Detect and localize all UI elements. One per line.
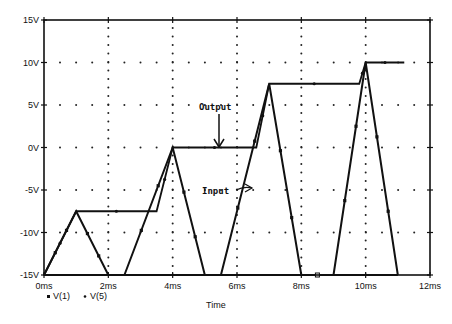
x-tick-label: 8ms xyxy=(293,281,311,291)
marker-square-icon xyxy=(194,235,197,238)
grid-dot xyxy=(300,129,302,131)
y-tick-label: 10V xyxy=(23,58,39,68)
grid-dot xyxy=(59,147,61,149)
grid-dot xyxy=(236,138,238,140)
grid-dot xyxy=(300,78,302,80)
grid-dot xyxy=(123,62,125,64)
grid-dot xyxy=(172,265,174,267)
grid-dot xyxy=(236,36,238,38)
grid-dot xyxy=(365,121,367,123)
grid-dot xyxy=(107,232,109,234)
grid-dot xyxy=(317,62,319,64)
marker-dot-icon xyxy=(58,242,61,245)
marker-square-icon xyxy=(290,216,293,219)
grid-dot xyxy=(172,163,174,165)
grid-dot xyxy=(140,104,142,106)
grid-dot xyxy=(172,44,174,46)
grid-dot xyxy=(333,232,335,234)
grid-dot xyxy=(300,121,302,123)
grid-dot xyxy=(107,112,109,114)
grid-dot xyxy=(349,232,351,234)
grid-dot xyxy=(220,232,222,234)
y-tick-label: -15V xyxy=(20,270,39,280)
grid-dot xyxy=(107,78,109,80)
grid-dot xyxy=(365,95,367,97)
grid-dot xyxy=(140,189,142,191)
grid-dot xyxy=(236,78,238,80)
grid-dot xyxy=(284,104,286,106)
marker-square-icon xyxy=(343,199,346,202)
grid-dot xyxy=(107,129,109,131)
grid-dot xyxy=(236,248,238,250)
grid-dot xyxy=(107,189,109,191)
marker-square-icon xyxy=(236,206,239,209)
marker-square-icon xyxy=(354,125,357,128)
grid-dot xyxy=(172,189,174,191)
grid-dot xyxy=(413,189,415,191)
annotation-input: Input xyxy=(202,184,252,196)
grid-dot xyxy=(188,62,190,64)
grid-dot xyxy=(59,189,61,191)
grid-dot xyxy=(268,147,270,149)
legend-label-v1: V(1) xyxy=(53,291,70,301)
grid-dot xyxy=(172,27,174,29)
grid-dot xyxy=(236,129,238,131)
grid-dot xyxy=(236,155,238,157)
grid-dot xyxy=(236,163,238,165)
grid-dot xyxy=(156,62,158,64)
grid-dot xyxy=(365,87,367,89)
chart: 15V10V5V0V-5V-10V-15V 0ms2ms4ms6ms8ms10m… xyxy=(0,0,452,324)
grid-dot xyxy=(107,172,109,174)
grid-dot xyxy=(156,232,158,234)
grid-dot xyxy=(172,138,174,140)
marker-dot-icon xyxy=(313,82,316,85)
grid-dot xyxy=(172,240,174,242)
grid-dot xyxy=(301,62,303,64)
grid-dot xyxy=(236,121,238,123)
grid-dot xyxy=(188,104,190,106)
grid-dot xyxy=(236,180,238,182)
grid-dot xyxy=(236,70,238,72)
grid-dot xyxy=(107,163,109,165)
grid-dot xyxy=(333,189,335,191)
grid-dot xyxy=(284,62,286,64)
grid-dot xyxy=(365,104,367,106)
grid-dot xyxy=(123,104,125,106)
grid-dot xyxy=(236,104,238,106)
series xyxy=(44,61,404,277)
grid-dot xyxy=(107,214,109,216)
grid-dot xyxy=(236,265,238,267)
grid-dot xyxy=(172,78,174,80)
grid-dot xyxy=(172,112,174,114)
grid-dot xyxy=(300,155,302,157)
grid-dot xyxy=(349,104,351,106)
grid-dot xyxy=(365,265,367,267)
marker-square-icon xyxy=(375,135,378,138)
grid-dot xyxy=(236,87,238,89)
grid-dot xyxy=(413,104,415,106)
grid-dot xyxy=(107,257,109,259)
marker-square-icon xyxy=(182,191,185,194)
grid-dot xyxy=(172,104,174,106)
grid-dot xyxy=(91,62,93,64)
grid-dot xyxy=(381,189,383,191)
grid-dot xyxy=(156,147,158,149)
grid-dot xyxy=(365,248,367,250)
grid-dot xyxy=(300,257,302,259)
grid-dot xyxy=(107,248,109,250)
grid-dot xyxy=(172,232,174,234)
grid-dot xyxy=(300,223,302,225)
grid-dot xyxy=(107,27,109,29)
grid-dot xyxy=(300,163,302,165)
marker-square-icon xyxy=(86,232,89,235)
x-tick-label: 12ms xyxy=(419,281,442,291)
x-axis-label: Time xyxy=(206,300,226,310)
marker-square-icon xyxy=(97,254,100,257)
grid-dot xyxy=(300,95,302,97)
grid-dot xyxy=(268,189,270,191)
grid-dot xyxy=(300,36,302,38)
grid-dot xyxy=(381,232,383,234)
grid-dot xyxy=(236,197,238,199)
grid-dot xyxy=(188,189,190,191)
grid-dot xyxy=(172,257,174,259)
